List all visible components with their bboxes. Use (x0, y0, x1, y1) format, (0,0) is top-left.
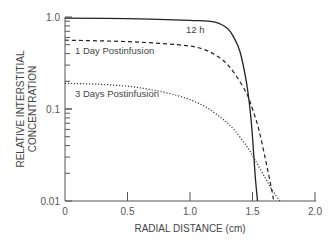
y-tick-label: 1.0 (46, 12, 60, 23)
x-tick-label: 1.0 (183, 206, 197, 217)
x-axis-title: RADIAL DISTANCE (cm) (134, 223, 245, 234)
x-tick-label: 1.5 (246, 206, 260, 217)
annotation-1-day: 1 Day Postinfusion (75, 45, 154, 56)
chart: 0 0.5 1.0 1.5 2.0 0.01 0.1 1.0 RADIAL DI… (0, 0, 335, 242)
y-axis-title-line1: RELATIVE INTERSTITIAL (15, 50, 26, 167)
y-tick-label: 0.01 (41, 196, 61, 207)
y-tick-label: 0.1 (46, 104, 60, 115)
y-axis-title-line2: CONCENTRATION (27, 66, 38, 152)
series-3days-line (65, 83, 280, 201)
x-tick-label: 0 (62, 206, 68, 217)
y-ticks (65, 17, 72, 201)
x-ticks (128, 192, 316, 201)
x-tick-label: 2.0 (308, 206, 322, 217)
annotation-12h: 12 h (186, 24, 205, 35)
x-tick-label: 0.5 (121, 206, 135, 217)
annotation-3-days: 3 Days Postinfusion (75, 88, 159, 99)
